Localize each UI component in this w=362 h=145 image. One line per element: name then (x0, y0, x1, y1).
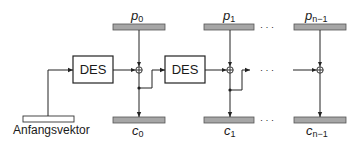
junction-dot-0 (137, 86, 140, 89)
c1-label: c1 (224, 123, 236, 139)
des-block-1: DES (73, 56, 113, 83)
ellipsis-bottom: · · · (260, 115, 274, 125)
des-label-2: DES (172, 62, 199, 77)
des-label-1: DES (80, 62, 107, 77)
ciphertext-block-c1: c1 (204, 117, 254, 139)
xor-node-n-1 (317, 67, 323, 73)
ellipsis-top: · · · (260, 22, 274, 32)
c0-label: c0 (132, 123, 144, 139)
initialization-vector: Anfangsvektor (13, 116, 90, 137)
cn-1-label: cn−1 (306, 123, 328, 139)
xor-node-0 (136, 67, 142, 73)
plaintext-block-p0: p0 (113, 8, 165, 30)
ellipsis-middle: · · · (260, 65, 274, 75)
iv-label: Anfangsvektor (13, 123, 90, 137)
des-block-2: DES (165, 56, 205, 83)
cbc-diagram: p0 p1 pn−1 c0 c1 cn−1 · · · · · · · · · … (0, 0, 362, 145)
ciphertext-block-c0: c0 (113, 117, 165, 139)
plaintext-block-p1: p1 (204, 8, 254, 30)
pn-1-label: pn−1 (304, 8, 328, 24)
xor-node-1 (227, 67, 233, 73)
ciphertext-block-cn-1: cn−1 (294, 117, 346, 139)
p0-label: p0 (130, 8, 143, 24)
plaintext-block-pn-1: pn−1 (294, 8, 346, 30)
junction-dot-1 (228, 88, 231, 91)
p1-label: p1 (222, 8, 235, 24)
